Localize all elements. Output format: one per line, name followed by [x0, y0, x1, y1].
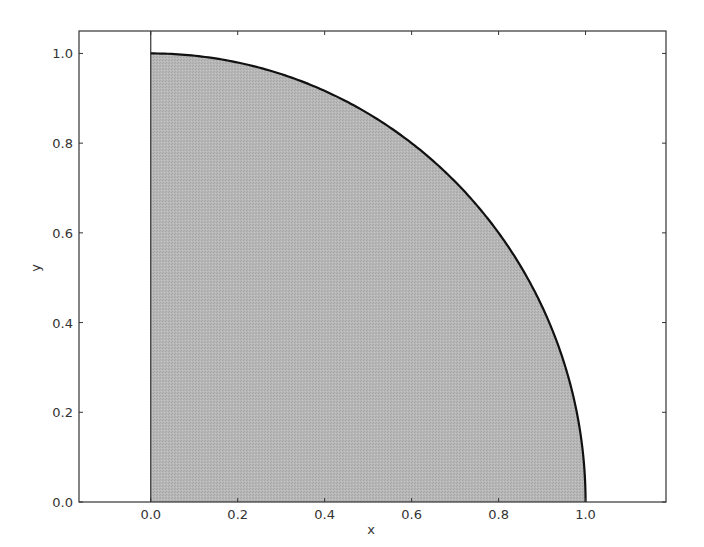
- y-tick-label: 0.8: [52, 136, 73, 151]
- chart-figure: 0.00.20.40.60.81.0 0.00.20.40.60.81.0 x …: [0, 0, 704, 547]
- x-tick-label: 0.8: [488, 507, 509, 522]
- y-tick-label: 0.2: [52, 405, 73, 420]
- x-tick-label: 0.2: [227, 507, 248, 522]
- x-tick-label: 0.6: [401, 507, 422, 522]
- y-tick-label: 0.0: [52, 495, 73, 510]
- x-axis-label: x: [367, 522, 375, 537]
- x-tick-label: 0.4: [314, 507, 335, 522]
- filled-area: [151, 53, 586, 502]
- x-tick-label: 1.0: [575, 507, 596, 522]
- x-tick-label: 0.0: [140, 507, 161, 522]
- y-axis-label: y: [28, 264, 43, 272]
- y-tick-label: 1.0: [52, 46, 73, 61]
- y-tick-label: 0.4: [52, 316, 73, 331]
- area-under-curve: [151, 53, 586, 502]
- y-tick-label: 0.6: [52, 226, 73, 241]
